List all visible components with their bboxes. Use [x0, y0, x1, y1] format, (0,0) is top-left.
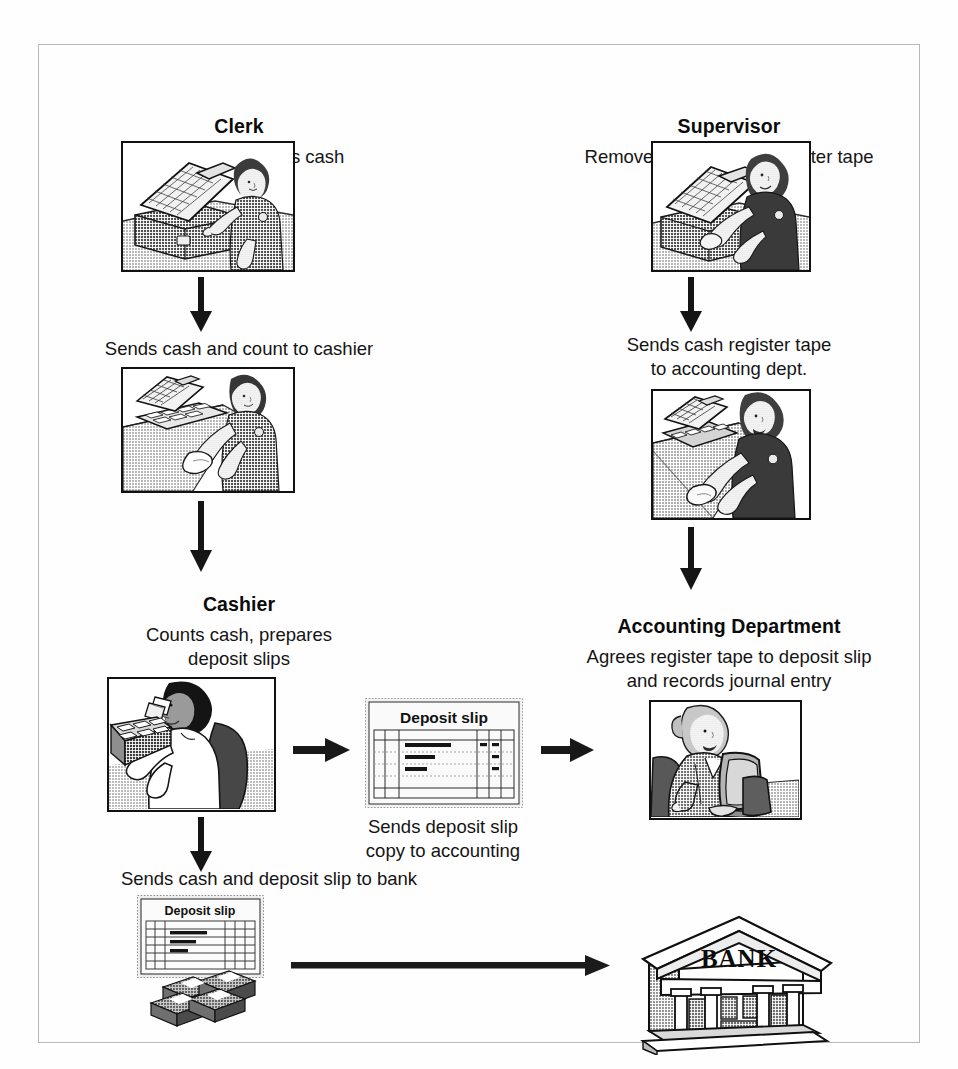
bank-label: BANK [701, 945, 777, 972]
supervisor-sending-tape-image [651, 389, 811, 520]
clerk-arrow-down-2 [190, 501, 212, 577]
cashier-bank-caption: Sends cash and deposit slip to bank [121, 867, 417, 891]
clerk-handing-cash-image [121, 367, 295, 493]
accounting-role-title: Accounting Department [617, 615, 840, 638]
cashier-slip-caption-line1: Sends deposit slip [368, 815, 518, 839]
diagram-frame: Clerk Enters sales, counts cash [38, 44, 920, 1043]
cashier-slip-caption-line2: copy to accounting [366, 839, 520, 863]
cashier-to-deposit-slip-arrow [293, 737, 351, 767]
deposit-slip-copy: Deposit slip [365, 698, 523, 808]
accountant-at-computer-image [649, 700, 802, 820]
clerk-at-cash-register-image [121, 141, 295, 272]
supervisor-step-caption-line1: Sends cash register tape [627, 333, 832, 357]
cashier-duty-line1: Counts cash, prepares [146, 623, 332, 647]
deposit-slip-with-cash: Deposit slip [137, 895, 287, 1030]
cashier-duty-line2: deposit slips [188, 647, 290, 671]
clerk-role-title: Clerk [214, 115, 263, 138]
deposit-to-bank-arrow [291, 950, 611, 986]
deposit-slip-copy-label: Deposit slip [400, 709, 488, 726]
diagram-page: Clerk Enters sales, counts cash [0, 0, 958, 1069]
bank-building-illustration: BANK [635, 905, 855, 1055]
accounting-duty-line2: and records journal entry [627, 669, 832, 693]
cashier-counting-cash-image [107, 677, 276, 812]
cashier-role-title: Cashier [203, 593, 275, 616]
clerk-arrow-down-1 [190, 277, 212, 337]
accounting-duty-line1: Agrees register tape to deposit slip [587, 645, 872, 669]
supervisor-register-tape-image [651, 141, 811, 272]
supervisor-arrow-down-2 [680, 527, 702, 595]
supervisor-arrow-down-1 [680, 277, 702, 337]
supervisor-role-title: Supervisor [678, 115, 781, 138]
clerk-step-caption: Sends cash and count to cashier [105, 337, 373, 361]
deposit-slip-with-cash-label: Deposit slip [165, 904, 236, 918]
supervisor-step-caption-line2: to accounting dept. [651, 357, 807, 381]
deposit-slip-to-accounting-arrow [541, 737, 595, 767]
